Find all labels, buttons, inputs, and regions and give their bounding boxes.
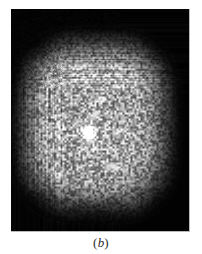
figure-panel-b: (b)	[0, 0, 202, 254]
caption-suffix: )	[104, 235, 109, 250]
figure-caption: (b)	[0, 233, 202, 253]
speckle-intensity-heatmap	[11, 9, 190, 232]
intensity-image-panel	[11, 9, 190, 232]
